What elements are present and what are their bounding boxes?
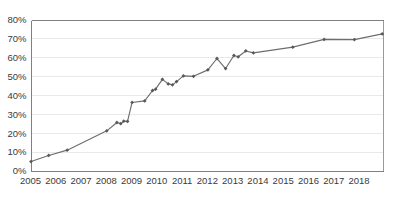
x-axis-tick-labels: 2005200620072008200920102011201220132014… — [20, 175, 370, 186]
data-point-marker — [47, 154, 51, 158]
x-tick-label-2005: 2005 — [20, 175, 41, 186]
y-tick-label-30: 30% — [7, 109, 27, 120]
data-point-marker — [291, 45, 295, 49]
chart-canvas: 0%10%20%30%40%50%60%70%80% 2005200620072… — [0, 0, 396, 197]
data-point-marker — [29, 160, 33, 164]
y-tick-label-10: 10% — [7, 146, 27, 157]
y-tick-label-60: 60% — [7, 52, 27, 63]
y-tick-label-80: 80% — [7, 14, 27, 25]
data-point-marker — [192, 74, 196, 78]
data-point-marker — [251, 51, 255, 55]
x-tick-label-2007: 2007 — [70, 175, 91, 186]
gridlines-group — [31, 21, 384, 172]
y-axis-tick-labels: 0%10%20%30%40%50%60%70%80% — [7, 14, 27, 177]
y-tick-label-70: 70% — [7, 33, 27, 44]
y-tick-label-50: 50% — [7, 71, 27, 82]
x-tick-label-2006: 2006 — [45, 175, 66, 186]
data-series-group — [29, 32, 384, 163]
x-tick-label-2009: 2009 — [121, 175, 142, 186]
x-tick-label-2011: 2011 — [172, 175, 192, 186]
x-tick-label-2016: 2016 — [298, 175, 319, 186]
y-tick-label-20: 20% — [7, 128, 27, 139]
x-tick-label-2017: 2017 — [323, 175, 344, 186]
x-tick-label-2015: 2015 — [273, 175, 294, 186]
y-tick-label-40: 40% — [7, 90, 27, 101]
x-tick-label-2018: 2018 — [348, 175, 369, 186]
x-tick-label-2014: 2014 — [247, 175, 268, 186]
series-line-0 — [31, 34, 382, 162]
data-point-marker — [65, 148, 69, 152]
data-point-marker — [126, 119, 130, 123]
x-tick-label-2010: 2010 — [146, 175, 167, 186]
x-tick-label-2013: 2013 — [222, 175, 243, 186]
x-tick-label-2012: 2012 — [197, 175, 218, 186]
x-tick-label-2008: 2008 — [96, 175, 117, 186]
data-point-marker — [130, 101, 134, 105]
line-chart-container: 0%10%20%30%40%50%60%70%80% 2005200620072… — [0, 0, 396, 197]
